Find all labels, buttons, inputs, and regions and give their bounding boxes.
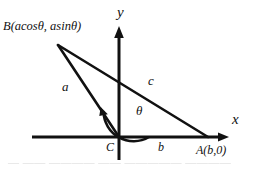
side-label-b: b xyxy=(158,141,164,153)
side-label-a: a xyxy=(62,80,69,93)
point-label-A: A(b,0) xyxy=(196,144,226,156)
cropped-caption-strip: — —— ———— —— ————— ———— xyxy=(0,163,254,169)
side-label-c: c xyxy=(148,74,154,87)
x-axis-arrowhead xyxy=(218,133,229,142)
geometry-figure: B(acosθ, asinθ) y x a c b C A(b,0) θ — —… xyxy=(0,0,254,169)
point-label-B: B(acosθ, asinθ) xyxy=(3,20,81,33)
point-label-C: C xyxy=(106,141,114,153)
cropped-caption-text: — —— ———— —— ————— ———— xyxy=(8,163,231,168)
y-axis-label: y xyxy=(117,5,124,20)
segment-c-BA xyxy=(58,45,208,137)
y-axis-arrowhead xyxy=(114,26,124,38)
x-axis-label: x xyxy=(232,112,239,127)
angle-label-theta: θ xyxy=(136,104,142,117)
theta-arc-arrowhead xyxy=(99,107,108,116)
